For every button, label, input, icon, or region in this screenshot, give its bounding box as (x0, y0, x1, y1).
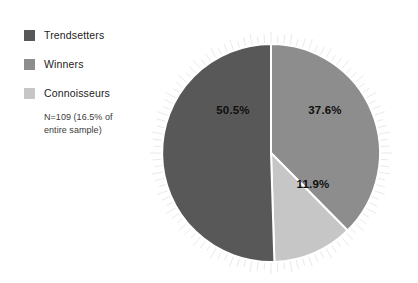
pie-edge-ray (250, 261, 252, 272)
pie-edge-ray (189, 66, 195, 73)
legend-swatch-connoisseurs (24, 88, 35, 99)
pie-edge-ray (296, 39, 298, 46)
pie-slice-group (162, 44, 380, 262)
pie-edge-ray (380, 166, 389, 167)
pie-edge-ray (162, 197, 170, 201)
pie-edge-ray (257, 37, 258, 44)
pie-edge-ray (237, 41, 239, 48)
pie-edge-ray (225, 254, 228, 260)
pie-slice-value-label: 11.9% (297, 178, 330, 190)
pie-edge-ray (165, 100, 173, 104)
pie-edge-ray (155, 166, 162, 167)
pie-edge-ray (366, 93, 376, 99)
pie-edge-ray (152, 172, 163, 174)
pie-chart-area: 50.5%37.6%11.9% (150, 22, 402, 274)
pie-edge-ray (201, 59, 205, 65)
pie-edge-ray (351, 228, 356, 233)
pie-edge-ray (191, 233, 196, 238)
legend-label-winners: Winners (44, 59, 84, 70)
pie-edge-ray (378, 126, 387, 128)
legend-swatch-trendsetters (24, 30, 35, 41)
pie-edge-ray (346, 233, 352, 240)
pie-edge-ray (284, 262, 285, 269)
pie-edge-ray (172, 213, 180, 218)
pie-edge-ray (290, 34, 292, 45)
legend-label-trendsetters: Trendsetters (44, 30, 104, 41)
pie-edge-ray (290, 261, 292, 272)
pie-edge-ray (326, 248, 332, 258)
pie-edge-ray (376, 185, 385, 188)
pie-edge-ray (159, 185, 166, 187)
pie-edge-ray (320, 47, 324, 55)
pie-edge-ray (284, 35, 285, 44)
pie-slice-trendsetters[interactable] (162, 44, 274, 262)
pie-edge-ray (164, 107, 170, 110)
pie-edge-ray (374, 112, 384, 116)
pie-edge-ray (303, 39, 306, 48)
pie-edge-ray (379, 172, 390, 174)
pie-edge-ray (337, 241, 341, 247)
pie-edge-ray (157, 126, 164, 128)
pie-edge-ray (176, 82, 183, 87)
pie-edge-ray (355, 224, 363, 231)
pie-edge-ray (230, 256, 234, 266)
pie-edge-ray (178, 224, 186, 231)
pie-edge-ray (303, 258, 305, 265)
pie-edge-ray (379, 132, 390, 134)
pie-edge-ray (331, 245, 336, 253)
pie-edge-ray (250, 34, 252, 45)
pie-edge-ray (315, 254, 319, 262)
pie-edge-ray (351, 71, 358, 77)
pie-chart-svg: 50.5%37.6%11.9% (150, 22, 402, 274)
pie-edge-ray (193, 237, 200, 245)
pie-edge-ray (372, 106, 380, 110)
pie-edge-ray (184, 228, 191, 234)
pie-edge-ray (166, 93, 176, 99)
pie-edge-ray (363, 213, 369, 217)
pie-edge-ray (320, 251, 323, 257)
pie-edge-ray (369, 202, 377, 206)
pie-edge-ray (342, 60, 349, 68)
pie-edge-ray (369, 100, 375, 103)
pie-edge-ray (177, 219, 183, 223)
pie-edge-ray (315, 46, 318, 52)
pie-edge-ray (178, 75, 186, 82)
pie-edge-ray (346, 68, 351, 73)
pie-edge-ray (244, 260, 246, 267)
legend-label-connoisseurs: Connoisseurs (44, 88, 110, 99)
pie-edge-ray (211, 48, 217, 58)
pie-edge-ray (337, 58, 342, 65)
pie-edge-ray (257, 262, 258, 271)
legend-swatch-winners (24, 59, 35, 70)
pie-edge-ray (152, 132, 163, 134)
pie-edge-ray (309, 39, 313, 49)
pie-edge-ray (166, 202, 172, 205)
pie-edge-ray (157, 119, 166, 122)
pie-edge-ray (372, 197, 378, 200)
pie-edge-ray (342, 237, 349, 245)
pie-edge-ray (378, 178, 385, 180)
pie-edge-ray (296, 260, 298, 269)
pie-edge-ray (218, 48, 221, 54)
pie-edge-ray (277, 263, 278, 272)
pie-edge-ray (166, 208, 176, 214)
pie-edge-ray (218, 251, 222, 259)
pie-edge-ray (376, 119, 383, 121)
pie-edge-ray (157, 112, 167, 116)
pie-edge-ray (359, 219, 366, 224)
pie-slice-value-label: 37.6% (308, 104, 342, 116)
pie-edge-ray (157, 191, 167, 195)
pie-edge-ray (374, 191, 384, 195)
pie-edge-ray (366, 208, 376, 214)
pie-edge-ray (326, 48, 332, 58)
pie-edge-ray (193, 60, 200, 68)
pie-edge-ray (153, 139, 162, 140)
pie-edge-ray (206, 54, 211, 62)
pie-edge-ray (200, 241, 205, 248)
pie-edge-ray (381, 146, 390, 147)
pie-edge-ray (152, 159, 161, 160)
pie-edge-ray (224, 44, 228, 52)
pie-edge-ray (207, 245, 211, 251)
pie-edge-ray (155, 178, 164, 180)
pie-edge-ray (186, 73, 191, 78)
